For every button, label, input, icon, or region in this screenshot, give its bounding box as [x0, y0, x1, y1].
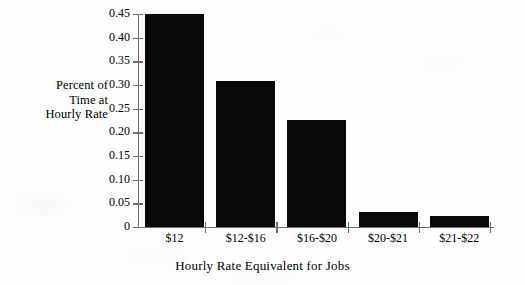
- y-axis-tick-mark: [133, 180, 143, 181]
- y-axis-line: [138, 14, 139, 227]
- y-axis-tick-mark: [133, 61, 143, 62]
- y-axis-tick-label: 0.15: [109, 148, 130, 163]
- y-axis-title-line-1: Percent of: [8, 78, 108, 93]
- bar-chart-figure: Percent of Time at Hourly Rate 00.050.10…: [0, 0, 525, 285]
- y-axis-tick-label: 0.20: [109, 124, 130, 139]
- x-axis-line: [138, 227, 494, 228]
- y-axis-tick-mark: [133, 109, 143, 110]
- y-axis-tick-label: 0.45: [109, 6, 130, 21]
- bar: [359, 212, 418, 227]
- plot-area: 00.050.100.150.200.250.300.350.400.45: [138, 14, 494, 227]
- y-axis-tick-label: 0.40: [109, 30, 130, 45]
- y-axis-tick-label: 0.25: [109, 101, 130, 116]
- y-axis-tick-mark: [133, 85, 143, 86]
- y-axis-tick-mark: [133, 132, 143, 133]
- x-axis-category-label: $21-$22: [414, 231, 504, 245]
- x-axis-title: Hourly Rate Equivalent for Jobs: [0, 258, 525, 274]
- bar: [145, 14, 204, 227]
- y-axis-title-line-3: Hourly Rate: [8, 107, 108, 122]
- bar: [287, 120, 346, 227]
- y-axis-title: Percent of Time at Hourly Rate: [8, 78, 108, 122]
- y-axis-title-line-2: Time at: [8, 93, 108, 108]
- y-axis-tick-label: 0.10: [109, 172, 130, 187]
- y-axis-tick-mark: [133, 203, 143, 204]
- bar: [430, 216, 489, 227]
- y-axis-tick-mark: [133, 156, 143, 157]
- y-axis-tick-mark: [133, 227, 143, 228]
- y-axis-tick-mark: [133, 14, 143, 15]
- y-axis-tick-label: 0.05: [109, 195, 130, 210]
- y-axis-tick-label: 0.35: [109, 53, 130, 68]
- y-axis-tick-mark: [133, 38, 143, 39]
- bar: [216, 81, 275, 227]
- y-axis-tick-label: 0.30: [109, 77, 130, 92]
